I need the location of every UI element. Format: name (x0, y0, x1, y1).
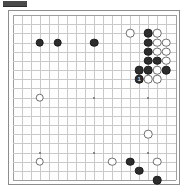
caption-label-bar (3, 1, 27, 7)
white-stone[interactable] (126, 29, 135, 38)
grid-line-horizontal (13, 116, 176, 117)
go-board-grid: 1 (9, 11, 179, 184)
black-stone[interactable] (135, 167, 144, 176)
black-stone[interactable] (153, 176, 162, 185)
black-stone[interactable] (126, 157, 135, 166)
star-point (147, 97, 149, 99)
grid-line-horizontal (13, 143, 176, 144)
white-stone[interactable] (35, 157, 44, 166)
black-stone[interactable] (144, 66, 153, 75)
grid-line-horizontal (13, 107, 176, 108)
grid-line-horizontal (13, 171, 176, 172)
star-point (93, 97, 95, 99)
black-stone[interactable] (135, 66, 144, 75)
star-point (93, 152, 95, 154)
white-stone[interactable] (153, 38, 162, 47)
black-stone[interactable] (90, 38, 99, 47)
figure-root: 1 (0, 0, 186, 189)
white-stone[interactable] (153, 75, 162, 84)
grid-line-horizontal (13, 24, 176, 25)
grid-line-horizontal (13, 15, 176, 16)
star-point (39, 152, 41, 154)
black-stone[interactable] (144, 38, 153, 47)
black-stone[interactable] (53, 38, 62, 47)
grid-line-horizontal (13, 88, 176, 89)
white-stone[interactable] (153, 157, 162, 166)
grid-line-vertical (176, 15, 177, 180)
white-stone[interactable] (35, 93, 44, 102)
white-stone[interactable] (153, 47, 162, 56)
white-stone[interactable] (153, 66, 162, 75)
white-stone[interactable] (144, 130, 153, 139)
go-board[interactable]: 1 (8, 10, 180, 185)
white-stone[interactable] (162, 57, 171, 66)
white-stone[interactable] (144, 75, 153, 84)
white-stone[interactable] (162, 38, 171, 47)
stone-move-number: 1 (136, 76, 143, 83)
black-stone[interactable] (162, 66, 171, 75)
black-stone[interactable] (144, 29, 153, 38)
black-stone[interactable]: 1 (135, 75, 144, 84)
black-stone[interactable] (35, 38, 44, 47)
black-stone[interactable] (144, 47, 153, 56)
grid-line-horizontal (13, 125, 176, 126)
star-point (147, 152, 149, 154)
white-stone[interactable] (108, 157, 117, 166)
white-stone[interactable] (153, 29, 162, 38)
white-stone[interactable] (162, 47, 171, 56)
black-stone[interactable] (144, 57, 153, 66)
black-stone[interactable] (153, 57, 162, 66)
grid-line-horizontal (13, 180, 176, 181)
